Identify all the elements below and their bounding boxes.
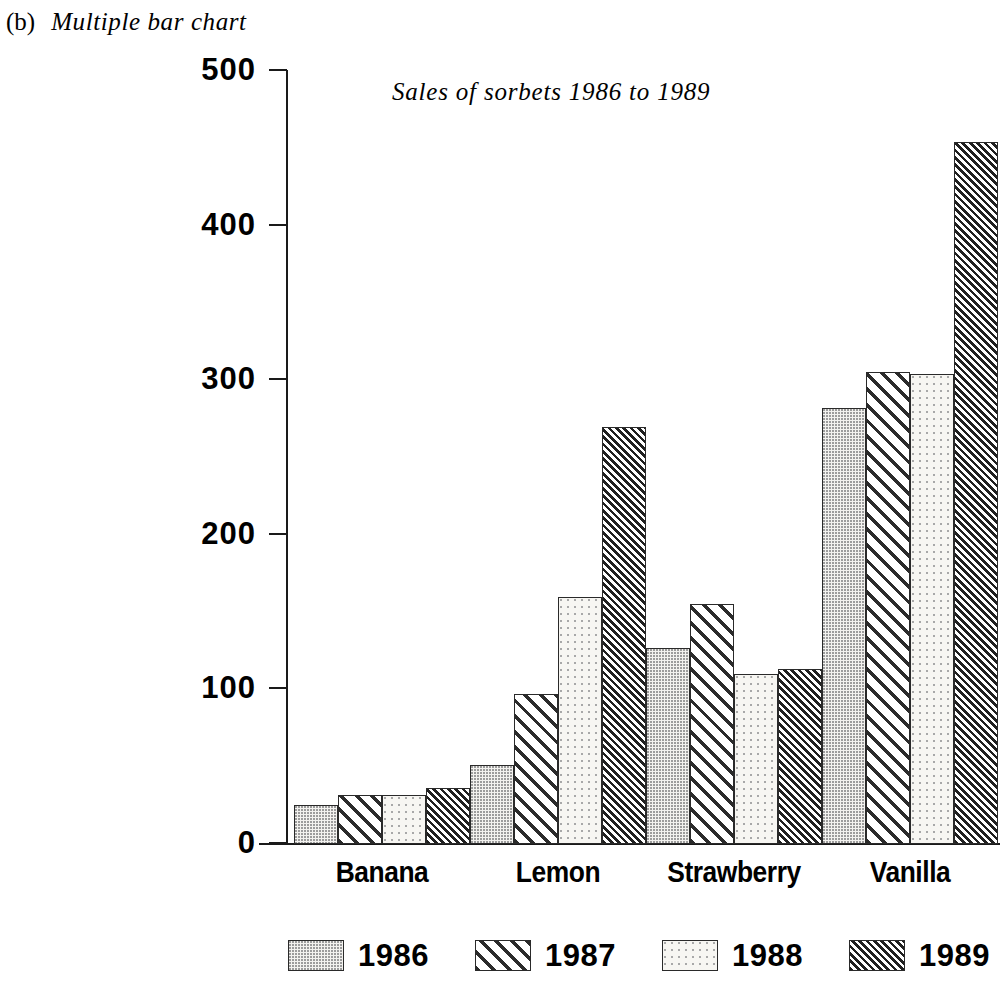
bar-banana-1989 bbox=[426, 788, 470, 844]
bar-vanilla-1986 bbox=[822, 408, 866, 844]
bar-strawberry-1987 bbox=[690, 604, 734, 844]
bar-strawberry-1988 bbox=[734, 674, 778, 844]
bar-banana-1988 bbox=[382, 795, 426, 844]
legend-item-1988[interactable]: 1988 bbox=[662, 940, 803, 971]
legend-swatch-1989 bbox=[849, 940, 905, 971]
bar-banana-1986 bbox=[294, 805, 338, 844]
legend-label-1988: 1988 bbox=[732, 940, 803, 971]
chart-legend: 1986198719881989 bbox=[288, 940, 1001, 971]
legend-item-1989[interactable]: 1989 bbox=[849, 940, 990, 971]
legend-swatch-1987 bbox=[475, 940, 531, 971]
legend-label-1989: 1989 bbox=[919, 940, 990, 971]
bar-lemon-1987 bbox=[514, 694, 558, 844]
legend-item-1986[interactable]: 1986 bbox=[288, 940, 429, 971]
bar-banana-1987 bbox=[338, 795, 382, 844]
category-label-lemon: Lemon bbox=[481, 855, 636, 889]
bar-vanilla-1987 bbox=[866, 372, 910, 844]
bar-lemon-1986 bbox=[470, 765, 514, 844]
legend-swatch-1988 bbox=[662, 940, 718, 971]
bar-lemon-1989 bbox=[602, 427, 646, 844]
category-label-strawberry: Strawberry bbox=[657, 855, 812, 889]
legend-swatch-1986 bbox=[288, 940, 344, 971]
category-label-banana: Banana bbox=[305, 855, 460, 889]
legend-item-1987[interactable]: 1987 bbox=[475, 940, 616, 971]
chart-plot-area: 0100200300400500 BananaLemonStrawberryVa… bbox=[0, 0, 1001, 1004]
bar-lemon-1988 bbox=[558, 597, 602, 844]
bars-layer bbox=[0, 0, 1001, 844]
bar-vanilla-1988 bbox=[910, 374, 954, 844]
legend-label-1986: 1986 bbox=[358, 940, 429, 971]
bar-vanilla-1989 bbox=[954, 142, 998, 844]
legend-label-1987: 1987 bbox=[545, 940, 616, 971]
bar-strawberry-1989 bbox=[778, 669, 822, 844]
bar-strawberry-1986 bbox=[646, 648, 690, 844]
category-label-vanilla: Vanilla bbox=[833, 855, 988, 889]
